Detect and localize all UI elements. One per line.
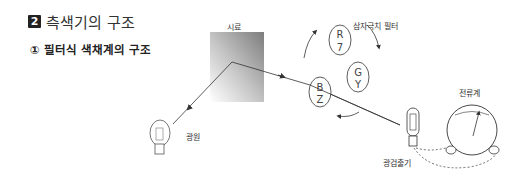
light-bulb-icon: [150, 120, 170, 154]
filter-r: R 7: [329, 25, 351, 55]
wire: [416, 148, 446, 150]
label-sample: 시료: [227, 21, 241, 32]
svg-text:Y: Y: [354, 79, 362, 90]
svg-text:R: R: [337, 29, 344, 40]
label-tristimulus-filter: 삼자극치 필터: [353, 20, 398, 31]
sample-plate: [210, 32, 264, 102]
colorimeter-diagram: R 7 G Y B Z: [0, 0, 524, 177]
rotation-arrow-left: [304, 31, 316, 58]
photodetector-icon: [407, 108, 419, 146]
filter-g: G Y: [347, 62, 369, 92]
svg-text:Z: Z: [317, 94, 324, 105]
svg-text:G: G: [354, 67, 362, 78]
label-light-source: 광원: [186, 131, 200, 142]
svg-text:B: B: [317, 82, 324, 93]
svg-text:7: 7: [337, 42, 343, 53]
filter-b: B Z: [309, 77, 331, 107]
label-photodetector: 광검출기: [383, 157, 411, 168]
ammeter-icon: [446, 105, 499, 155]
label-ammeter: 전류계: [459, 87, 480, 98]
rotation-arrow-bottom: [338, 112, 359, 117]
